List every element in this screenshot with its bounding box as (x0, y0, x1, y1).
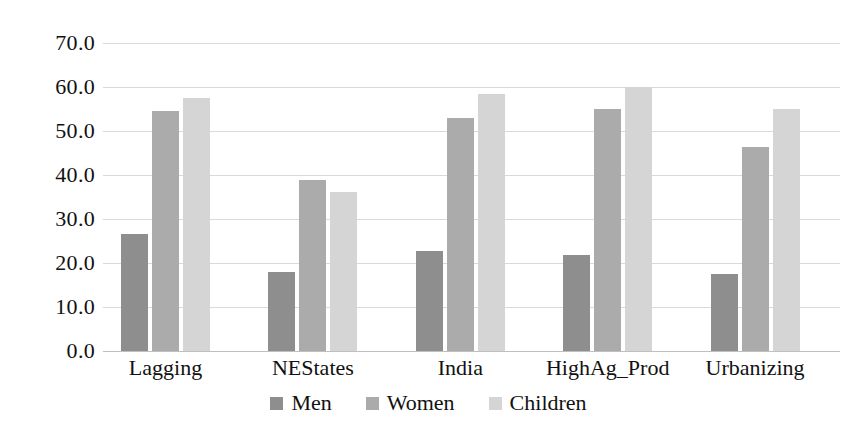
plot-area (103, 20, 840, 351)
bar-children-highag_prod (625, 87, 652, 351)
bar-children-urbanizing (773, 109, 800, 351)
y-axis: 70.060.050.040.030.020.010.00.0 (0, 20, 95, 365)
legend-swatch-icon (270, 397, 283, 410)
axis-baseline (103, 351, 840, 352)
y-tick-label: 40.0 (0, 164, 95, 186)
chart-legend: MenWomenChildren (0, 392, 857, 414)
bar-women-lagging (152, 111, 179, 351)
x-tick-label-lagging: Lagging (92, 353, 239, 383)
x-tick-label-highag_prod: HighAg_Prod (534, 353, 681, 383)
bar-children-india (478, 94, 505, 351)
y-tick-label: 60.0 (0, 76, 95, 98)
y-tick-label: 50.0 (0, 120, 95, 142)
x-tick-label-urbanizing: Urbanizing (681, 353, 828, 383)
bar-group (103, 20, 250, 351)
x-tick-label-india: India (387, 353, 534, 383)
bar-men-lagging (121, 234, 148, 351)
bar-women-highag_prod (594, 109, 621, 351)
bar-group (545, 20, 692, 351)
x-axis: LaggingNEStatesIndiaHighAg_ProdUrbanizin… (103, 353, 840, 387)
legend-item-women[interactable]: Women (366, 392, 455, 414)
legend-label: Children (510, 392, 587, 414)
bar-group (398, 20, 545, 351)
bar-men-nestates (268, 272, 295, 351)
legend-swatch-icon (366, 397, 379, 410)
legend-label: Women (387, 392, 455, 414)
bar-children-nestates (330, 192, 357, 351)
bar-group (693, 20, 840, 351)
bar-women-india (447, 118, 474, 351)
bar-group (250, 20, 397, 351)
bar-men-urbanizing (711, 274, 738, 351)
bar-chart: 70.060.050.040.030.020.010.00.0 LaggingN… (0, 0, 857, 437)
legend-item-men[interactable]: Men (270, 392, 331, 414)
y-tick-label: 10.0 (0, 296, 95, 318)
x-tick-label-nestates: NEStates (239, 353, 386, 383)
y-tick-label: 20.0 (0, 252, 95, 274)
y-tick-label: 30.0 (0, 208, 95, 230)
bar-men-india (416, 251, 443, 351)
legend-swatch-icon (489, 397, 502, 410)
legend-label: Men (291, 392, 331, 414)
bar-children-lagging (183, 98, 210, 351)
bar-men-highag_prod (563, 255, 590, 351)
y-tick-label: 0.0 (0, 340, 95, 362)
bar-women-urbanizing (742, 147, 769, 351)
y-tick-label: 70.0 (0, 32, 95, 54)
bar-women-nestates (299, 180, 326, 351)
legend-item-children[interactable]: Children (489, 392, 587, 414)
